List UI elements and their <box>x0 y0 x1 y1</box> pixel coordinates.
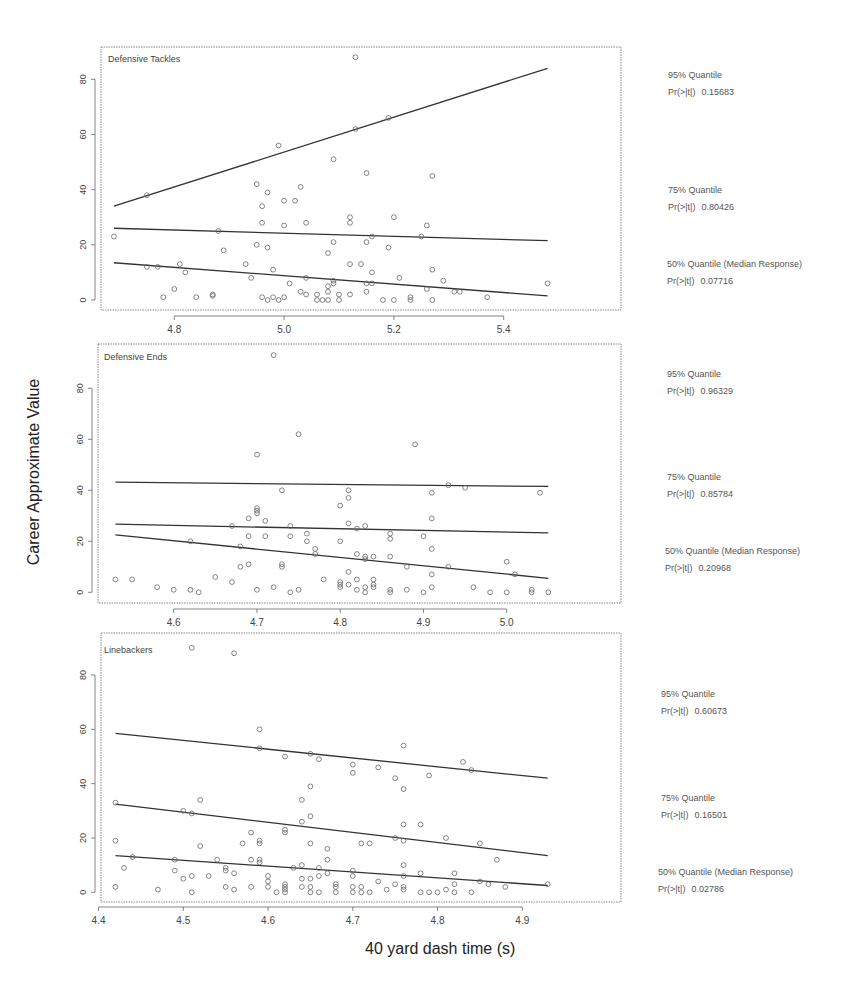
data-point <box>266 885 271 890</box>
data-point <box>488 590 493 595</box>
data-point <box>276 143 281 148</box>
data-point <box>359 885 364 890</box>
data-point <box>172 287 177 292</box>
panel-title: Defensive Tackles <box>108 54 181 64</box>
data-point <box>331 240 336 245</box>
data-point <box>221 248 226 253</box>
q95-label: 95% Quantile <box>668 67 734 84</box>
data-point <box>308 784 313 789</box>
data-point <box>429 490 434 495</box>
data-point <box>430 174 435 179</box>
y-tick-label: 60 <box>75 434 85 444</box>
q50-label: 50% Quantile (Median Response) <box>667 256 802 273</box>
data-point <box>287 281 292 286</box>
y-tick-label: 40 <box>75 485 85 495</box>
data-point <box>471 585 476 590</box>
data-point <box>485 295 490 300</box>
data-point <box>232 871 237 876</box>
p-value-label: Pr(>|t|) <box>668 87 695 97</box>
data-point <box>386 245 391 250</box>
data-point <box>348 292 353 297</box>
p-value: 0.96329 <box>700 386 733 396</box>
data-point <box>430 267 435 272</box>
data-point <box>350 874 355 879</box>
x-tick-label: 4.7 <box>250 617 264 628</box>
scatter-points <box>113 645 550 894</box>
data-point <box>346 496 351 501</box>
data-point <box>452 890 457 895</box>
data-point <box>155 585 160 590</box>
data-point <box>254 242 259 247</box>
data-point <box>418 890 423 895</box>
data-point <box>305 531 310 536</box>
y-tick-label: 80 <box>78 670 88 680</box>
data-point <box>113 577 118 582</box>
plot-frame <box>101 633 621 902</box>
panel2-q50-annotation: 50% Quantile (Median Response) Pr(>|t|)0… <box>665 543 800 577</box>
data-point <box>243 262 248 267</box>
data-point <box>274 890 279 895</box>
data-point <box>113 838 118 843</box>
data-point <box>461 760 466 765</box>
data-point <box>429 572 434 577</box>
data-point <box>376 765 381 770</box>
panel-title: Defensive Ends <box>104 352 168 362</box>
data-point <box>384 887 389 892</box>
panel-linebackers: Linebackers0204060804.44.54.64.74.84.9 <box>78 633 621 926</box>
data-point <box>263 534 268 539</box>
data-point <box>260 220 265 225</box>
data-point <box>393 882 398 887</box>
data-point <box>249 857 254 862</box>
data-point <box>429 585 434 590</box>
data-point <box>171 587 176 592</box>
data-point <box>206 874 211 879</box>
data-point <box>326 284 331 289</box>
panel3-q75-annotation: 75% Quantile Pr(>|t|)0.16501 <box>661 790 727 824</box>
data-point <box>288 534 293 539</box>
data-point <box>265 298 270 303</box>
data-point <box>257 727 262 732</box>
data-point <box>355 587 360 592</box>
data-point <box>215 857 220 862</box>
data-point <box>317 890 322 895</box>
data-point <box>504 559 509 564</box>
x-tick-label: 4.9 <box>515 915 529 926</box>
p-value: 0.07716 <box>700 276 733 286</box>
data-point <box>331 157 336 162</box>
y-tick-label: 0 <box>75 590 85 595</box>
data-point <box>404 564 409 569</box>
data-point <box>317 874 322 879</box>
data-point <box>183 270 188 275</box>
data-point <box>367 841 372 846</box>
panel-defensive-tackles: Defensive Tackles0204060804.85.05.25.4 <box>78 47 621 335</box>
y-tick-label: 0 <box>78 297 88 302</box>
data-point <box>194 295 199 300</box>
data-point <box>266 874 271 879</box>
plot-frame <box>98 344 621 603</box>
p-value-label: Pr(>|t|) <box>667 489 694 499</box>
panel3-q50-annotation: 50% Quantile (Median Response) Pr(>|t|)0… <box>658 864 793 898</box>
quantile-line-50 <box>114 263 548 296</box>
quantile-line-50 <box>116 856 548 886</box>
data-point <box>478 841 483 846</box>
data-point <box>348 262 353 267</box>
data-point <box>424 287 429 292</box>
data-point <box>350 762 355 767</box>
data-point <box>188 587 193 592</box>
data-point <box>337 292 342 297</box>
data-point <box>401 787 406 792</box>
data-point <box>355 577 360 582</box>
data-point <box>392 215 397 220</box>
data-point <box>155 265 160 270</box>
data-point <box>429 516 434 521</box>
data-point <box>364 240 369 245</box>
data-point <box>317 757 322 762</box>
data-point <box>350 885 355 890</box>
data-point <box>198 798 203 803</box>
panel1-q95-annotation: 95% Quantile Pr(>|t|)0.15683 <box>668 67 734 101</box>
data-point <box>177 262 182 267</box>
panel-defensive-ends: Defensive Ends0204060804.64.74.84.95.0 <box>75 344 621 628</box>
data-point <box>230 580 235 585</box>
data-point <box>255 452 260 457</box>
data-point <box>495 857 500 862</box>
